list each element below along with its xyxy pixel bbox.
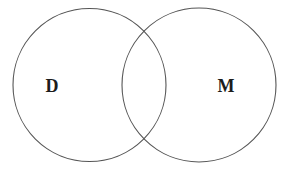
venn-diagram-canvas: [0, 0, 292, 175]
set-label-left: D: [45, 77, 58, 95]
set-label-right: M: [217, 77, 234, 95]
venn-diagram: D M: [0, 0, 292, 175]
